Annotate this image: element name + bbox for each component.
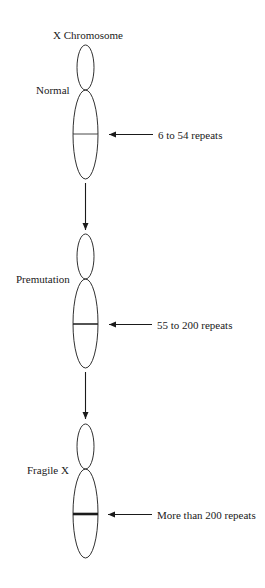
stage-label-fragile-x: Fragile X [27, 465, 69, 476]
diagram-title: X Chromosome [53, 30, 123, 41]
chromosome-fragile-x [73, 424, 152, 558]
stage-label-premutation: Premutation [16, 274, 70, 285]
chromosome-premutation [73, 234, 152, 368]
stage-label-normal: Normal [36, 85, 70, 96]
repeats-label-premutation: 55 to 200 repeats [157, 320, 232, 331]
chromosome-normal [73, 45, 153, 179]
repeats-label-normal: 6 to 54 repeats [158, 130, 222, 141]
fragile-x-diagram: X Chromosome Normal 6 to 54 repeats Prem… [0, 0, 265, 588]
repeats-label-fragile-x: More than 200 repeats [157, 510, 256, 521]
